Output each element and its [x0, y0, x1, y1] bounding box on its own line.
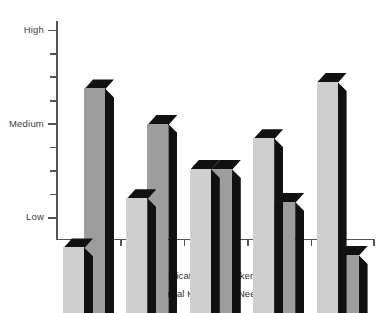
bar-side-face	[168, 124, 177, 313]
x-axis-tick	[120, 239, 122, 246]
y-axis-tick-major	[48, 217, 57, 219]
x-axis-tick	[184, 239, 186, 246]
x-axis-tick	[311, 239, 313, 246]
bar-side-face	[295, 202, 304, 313]
y-axis-label: Low	[0, 211, 44, 222]
bar-side-face	[211, 169, 220, 313]
y-axis-tick-minor	[50, 194, 57, 196]
bar-front-face	[317, 82, 338, 313]
y-axis-tick-minor	[50, 30, 57, 32]
plot-area: HighMediumLow 19851990199520002005	[0, 0, 387, 313]
bar-side-face	[105, 88, 114, 313]
bar-2000-series1	[253, 138, 274, 313]
y-axis-tick-minor	[50, 170, 57, 172]
y-axis-tick-minor	[50, 147, 57, 149]
y-axis-tick-minor	[50, 76, 57, 78]
bar-front-face	[253, 138, 274, 313]
bar-1990-series1	[126, 198, 147, 313]
y-axis-tick-major	[48, 123, 57, 125]
y-axis-tick-minor	[50, 53, 57, 55]
y-axis-tick-minor	[50, 100, 57, 102]
bar-1995-series1	[190, 169, 211, 313]
bar-side-face	[274, 138, 283, 313]
bar-side-face	[359, 255, 368, 313]
bar-1985-series1	[63, 247, 84, 313]
bar-side-face	[232, 169, 241, 313]
bar-chart: HighMediumLow 19851990199520002005 Sophi…	[0, 0, 387, 313]
y-axis-label: High	[0, 24, 44, 35]
bar-side-face	[338, 82, 347, 313]
x-axis-tick	[247, 239, 249, 246]
x-axis-tick	[373, 239, 375, 246]
y-axis-label: Medium	[0, 118, 44, 129]
bar-side-face	[84, 247, 93, 313]
bar-2005-series1	[317, 82, 338, 313]
bar-side-face	[147, 198, 156, 313]
bar-front-face	[190, 169, 211, 313]
bar-front-face	[126, 198, 147, 313]
bar-front-face	[63, 247, 84, 313]
